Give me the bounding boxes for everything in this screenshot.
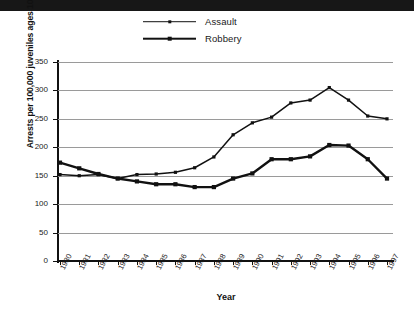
data-point [385, 117, 388, 120]
y-tick-label: 300 [22, 85, 48, 94]
y-tick-label: 100 [22, 199, 48, 208]
top-banner-strip [0, 0, 414, 11]
data-point [270, 116, 273, 119]
data-point [289, 157, 293, 161]
y-tick-label: 200 [22, 142, 48, 151]
data-point [231, 176, 235, 180]
y-tick-label: 250 [22, 114, 48, 123]
data-point [135, 173, 138, 176]
data-point [328, 86, 331, 89]
data-point [193, 185, 197, 189]
chart-legend: Assault Robbery [143, 13, 293, 47]
data-point [251, 121, 254, 124]
y-tick-label: 350 [22, 57, 48, 66]
series-layer [58, 62, 393, 261]
legend-label-assault: Assault [205, 16, 237, 27]
data-point [308, 154, 312, 158]
y-tick-mark [53, 62, 57, 63]
data-point [212, 185, 216, 189]
data-point [366, 114, 369, 117]
y-tick-mark [53, 90, 57, 91]
chart-figure: Assault Robbery Arrests per 100,000 juve… [0, 0, 414, 314]
data-point [96, 172, 100, 176]
series-robbery [58, 143, 389, 189]
data-point [250, 171, 254, 175]
data-point [174, 171, 177, 174]
data-point [155, 172, 158, 175]
y-tick-label: 50 [22, 228, 48, 237]
legend-swatch-robbery [143, 33, 196, 45]
plot-area [58, 62, 393, 261]
data-point [385, 176, 389, 180]
legend-item-assault: Assault [143, 13, 293, 30]
legend-swatch-assault [143, 16, 196, 28]
y-tick-label: 0 [22, 256, 48, 265]
data-point [193, 166, 196, 169]
y-axis-title: Arrests per 100,000 juveniles ages 10—17 [25, 0, 35, 165]
data-point [212, 155, 215, 158]
data-point [308, 98, 311, 101]
y-tick-mark [53, 204, 57, 205]
data-point [78, 174, 81, 177]
data-point [346, 143, 350, 147]
y-tick-mark [53, 147, 57, 148]
y-tick-mark [53, 119, 57, 120]
data-point [232, 133, 235, 136]
data-point [116, 176, 120, 180]
x-axis-title: Year [58, 292, 394, 302]
y-tick-mark [53, 261, 57, 262]
data-point [327, 143, 331, 147]
data-point [154, 182, 158, 186]
data-point [58, 173, 61, 176]
y-tick-mark [53, 233, 57, 234]
data-point [366, 157, 370, 161]
data-point [269, 157, 273, 161]
y-tick-label: 150 [22, 171, 48, 180]
series-line [60, 88, 387, 179]
series-line [60, 145, 387, 187]
data-point [135, 179, 139, 183]
y-tick-mark [53, 176, 57, 177]
legend-label-robbery: Robbery [205, 33, 242, 44]
data-point [347, 98, 350, 101]
data-point [173, 182, 177, 186]
series-assault [58, 86, 388, 180]
data-point [58, 161, 62, 165]
data-point [289, 101, 292, 104]
data-point [77, 166, 81, 170]
legend-item-robbery: Robbery [143, 30, 293, 47]
